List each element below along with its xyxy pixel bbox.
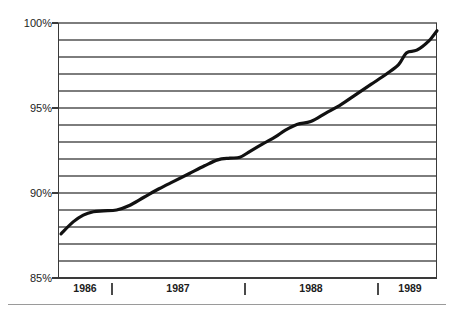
footer-rule <box>8 304 446 305</box>
x-axis-labels: 1986 1987 1988 1989 <box>0 0 454 321</box>
x-tick-label-1988: 1988 <box>299 283 322 294</box>
x-tick-label-1986: 1986 <box>73 283 96 294</box>
x-tick-label-1989: 1989 <box>398 283 421 294</box>
chart-figure: 100% 95% 90% 85% <box>0 0 454 321</box>
x-tick-label-1987: 1987 <box>166 283 189 294</box>
